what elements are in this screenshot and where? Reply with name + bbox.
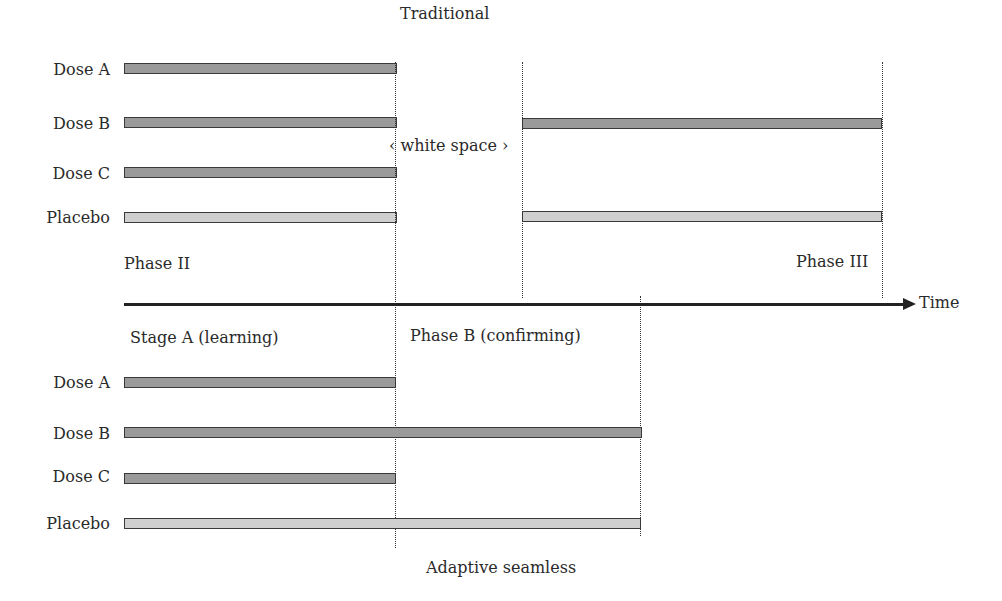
adaptive-row-label-dose-a: Dose A: [0, 375, 110, 391]
adaptive-row-label-placebo: Placebo: [0, 516, 110, 532]
adaptive-bar-dose-b: [124, 427, 642, 438]
phase3-end-line: [882, 62, 883, 298]
adaptive-end-line: [640, 296, 641, 536]
row-label-dose-c: Dose C: [0, 166, 110, 182]
time-axis: [124, 303, 904, 306]
row-label-dose-b: Dose B: [0, 116, 110, 132]
adaptive-row-label-dose-b: Dose B: [0, 426, 110, 442]
adaptive-bar-placebo: [124, 518, 641, 529]
phase3-label: Phase III: [796, 254, 868, 270]
row-label-placebo: Placebo: [0, 210, 110, 226]
phase2-bar-dose-a: [124, 63, 397, 74]
time-axis-arrow-icon: [903, 298, 916, 310]
adaptive-bar-dose-a: [124, 377, 396, 388]
white-space-label: ‹ white space ›: [389, 138, 509, 154]
adaptive-bar-dose-c: [124, 473, 396, 484]
phase3-start-line: [522, 62, 523, 298]
phase3-bar-placebo: [522, 211, 882, 222]
adaptive-row-label-dose-c: Dose C: [0, 469, 110, 485]
phase2-bar-dose-b: [124, 117, 397, 128]
phase2-bar-placebo: [124, 212, 397, 223]
row-label-dose-a: Dose A: [0, 62, 110, 78]
phase2-bar-dose-c: [124, 167, 397, 178]
stage-b-label: Phase B (confirming): [410, 328, 581, 344]
phase3-bar-dose-b: [522, 118, 882, 129]
phase2-label: Phase II: [124, 256, 190, 272]
time-axis-label: Time: [919, 295, 959, 311]
stage-a-label: Stage A (learning): [130, 330, 279, 346]
traditional-title: Traditional: [400, 6, 489, 22]
adaptive-title: Adaptive seamless: [426, 560, 576, 576]
